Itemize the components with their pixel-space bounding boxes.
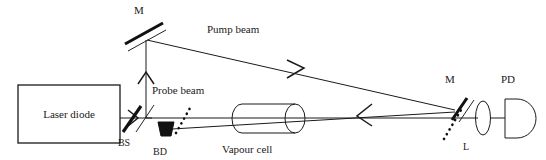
optical-setup-diagram: M Pump beam M PD Laser diode Probe beam … [0,0,546,160]
beam-dump [158,122,174,136]
mirror-top-label: M [134,4,144,16]
photodetector [505,99,536,138]
mirror-right-label: M [445,73,455,85]
photodetector-label: PD [501,73,515,85]
photodetector-body [505,99,536,138]
polarizer-left-dotted [176,108,190,133]
diagram-canvas: M Pump beam M PD Laser diode Probe beam … [0,0,546,160]
arrowhead-pump-left [357,104,372,126]
polarizer-right [444,110,461,139]
beam-splitter-label: BS [118,137,130,148]
beam-pump-diagonal [147,40,455,110]
mirror-right-surface [452,98,467,120]
vapour-cell-label: Vapour cell [222,143,272,155]
beam-dump-label: BD [153,146,167,157]
pump-beam-diagonal [147,40,455,110]
polarizer-right-dotted [444,110,461,139]
lens-label: L [463,141,469,152]
beam-pump-return [172,112,455,129]
probe-beam-label: Probe beam [152,84,205,96]
mirror-top-surface [125,23,163,44]
pump-beam-label: Pump beam [207,23,260,35]
beam-dump-body [158,122,174,136]
laser-diode-label: Laser diode [43,108,95,120]
polarizer-left [176,108,190,133]
pump-beam-return [172,104,455,129]
